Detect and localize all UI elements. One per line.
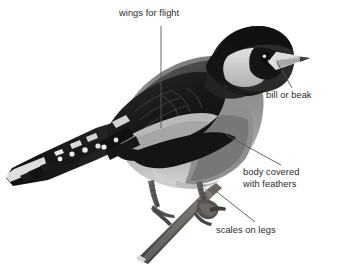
label-body-line-1: body covered bbox=[243, 167, 299, 177]
bird-illustration bbox=[0, 0, 337, 266]
label-wings-for-flight: wings for flight bbox=[119, 8, 179, 20]
label-scales-line-1: scales on legs bbox=[216, 225, 276, 235]
leader-line-scales bbox=[212, 188, 255, 222]
bird-anatomy-diagram: wings for flight bill or beak body cover… bbox=[0, 0, 337, 266]
label-scales-on-legs: scales on legs bbox=[216, 225, 276, 237]
label-bill-line-1: bill or beak bbox=[266, 90, 312, 100]
label-body-line-2: with feathers bbox=[243, 179, 296, 189]
label-bill-or-beak: bill or beak bbox=[266, 90, 312, 102]
label-body-covered-with-feathers: body coveredwith feathers bbox=[243, 167, 299, 190]
label-wings-line-1: wings for flight bbox=[119, 8, 179, 18]
